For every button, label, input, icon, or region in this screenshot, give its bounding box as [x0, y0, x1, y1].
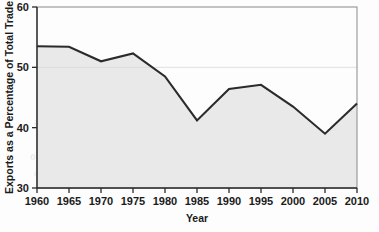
x-tick-label: 1975	[121, 195, 145, 207]
x-tick-label: 2000	[281, 195, 305, 207]
x-tick-label: 1995	[249, 195, 273, 207]
y-axis-ticks: 30405060	[17, 1, 37, 194]
y-tick-label: 60	[17, 1, 29, 13]
x-tick-label: 1960	[25, 195, 49, 207]
chart-figure: the economic and political regions of th…	[0, 0, 379, 232]
x-tick-label: 1985	[185, 195, 209, 207]
x-axis-title: Year	[186, 212, 208, 224]
y-tick-label: 40	[17, 122, 29, 134]
x-tick-label: 2010	[345, 195, 369, 207]
x-tick-label: 1980	[153, 195, 177, 207]
x-axis-ticks: 1960196519701975198019851990199520002005…	[25, 188, 369, 207]
y-axis-title: Exports as a Percentage of Total Trade	[3, 1, 15, 194]
line-chart: 30405060 1960196519701975198019851990199…	[0, 0, 379, 232]
y-tick-label: 50	[17, 61, 29, 73]
y-tick-label: 30	[17, 182, 29, 194]
x-tick-label: 1965	[57, 195, 81, 207]
x-tick-label: 1990	[217, 195, 241, 207]
x-tick-label: 1970	[89, 195, 113, 207]
x-tick-label: 2005	[313, 195, 337, 207]
